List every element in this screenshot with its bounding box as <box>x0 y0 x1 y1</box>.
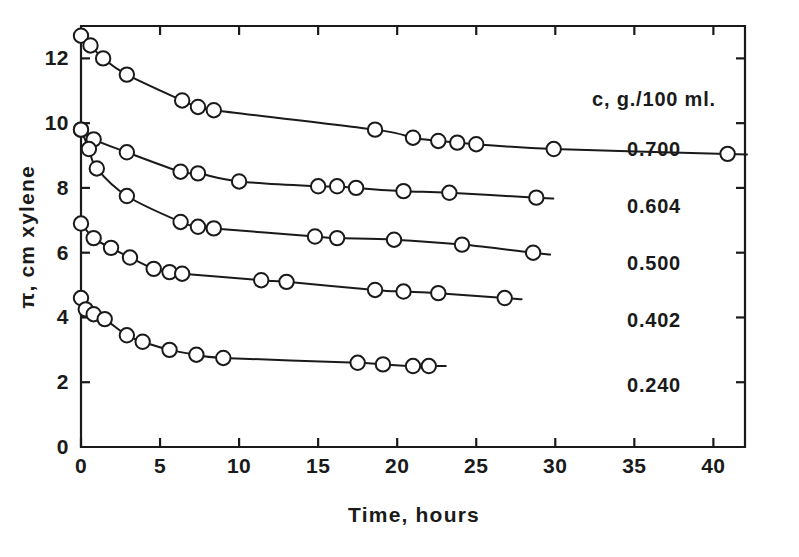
y-tick-label: 12 <box>45 46 69 69</box>
legend-label-0.500: 0.500 <box>627 252 681 274</box>
data-point-marker <box>350 356 364 370</box>
series-line-0.240 <box>81 298 446 366</box>
y-axis-tick-labels: 024681012 <box>45 46 69 458</box>
osmotic-pressure-line-chart: 0510152025303540 024681012 c, g./100 ml.… <box>0 0 799 557</box>
data-point-marker <box>135 335 149 349</box>
x-tick-label: 40 <box>701 454 725 477</box>
data-point-marker <box>254 273 268 287</box>
y-tick-label: 0 <box>57 435 69 458</box>
x-tick-label: 35 <box>622 454 646 477</box>
data-point-marker <box>83 38 97 52</box>
chart-figure: 0510152025303540 024681012 c, g./100 ml.… <box>0 0 799 557</box>
legend: c, g./100 ml.0.7000.6040.5000.4020.240 <box>592 88 716 396</box>
data-point-marker <box>547 142 561 156</box>
data-point-marker <box>96 51 110 65</box>
data-point-marker <box>216 351 230 365</box>
data-point-marker <box>232 174 246 188</box>
data-point-marker <box>207 103 221 117</box>
y-tick-label: 4 <box>57 305 69 328</box>
legend-title: c, g./100 ml. <box>592 88 716 110</box>
y-axis-label: π, cm xylene <box>15 165 38 309</box>
data-point-marker <box>173 165 187 179</box>
data-point-marker <box>526 245 540 259</box>
data-point-marker <box>498 291 512 305</box>
data-point-marker <box>368 283 382 297</box>
y-tick-label: 6 <box>57 241 69 264</box>
data-point-marker <box>120 328 134 342</box>
data-point-marker <box>189 348 203 362</box>
data-point-marker <box>82 142 96 156</box>
data-point-marker <box>422 359 436 373</box>
data-point-marker <box>406 359 420 373</box>
data-point-marker <box>175 267 189 281</box>
y-tick-label: 2 <box>57 370 69 393</box>
data-point-marker <box>406 131 420 145</box>
data-point-marker <box>74 216 88 230</box>
data-point-marker <box>191 166 205 180</box>
data-point-marker <box>450 135 464 149</box>
data-point-marker <box>330 231 344 245</box>
x-tick-label: 25 <box>464 454 488 477</box>
x-tick-label: 0 <box>75 454 87 477</box>
data-point-marker <box>147 262 161 276</box>
data-point-marker <box>311 179 325 193</box>
x-axis-tick-labels: 0510152025303540 <box>75 454 726 477</box>
data-point-marker <box>173 215 187 229</box>
x-tick-label: 10 <box>227 454 251 477</box>
data-point-marker <box>431 134 445 148</box>
data-point-marker <box>396 184 410 198</box>
data-point-marker <box>396 284 410 298</box>
data-point-marker <box>442 186 456 200</box>
x-tick-label: 20 <box>385 454 409 477</box>
data-point-marker <box>431 286 445 300</box>
x-axis-label: Time, hours <box>348 503 480 526</box>
data-point-marker <box>529 190 543 204</box>
data-point-marker <box>98 312 112 326</box>
data-point-marker <box>123 250 137 264</box>
y-tick-label: 8 <box>57 176 69 199</box>
x-tick-label: 15 <box>306 454 330 477</box>
data-point-marker <box>86 231 100 245</box>
data-point-marker <box>191 220 205 234</box>
data-point-marker <box>308 229 322 243</box>
data-point-marker <box>120 67 134 81</box>
data-point-marker <box>349 181 363 195</box>
data-point-marker <box>376 357 390 371</box>
y-tick-label: 10 <box>45 111 69 134</box>
x-tick-label: 30 <box>543 454 567 477</box>
data-point-marker <box>175 93 189 107</box>
data-point-marker <box>162 343 176 357</box>
data-point-marker <box>455 237 469 251</box>
legend-label-0.240: 0.240 <box>627 374 681 396</box>
x-tick-label: 5 <box>154 454 166 477</box>
legend-label-0.604: 0.604 <box>627 195 681 217</box>
data-point-marker <box>120 145 134 159</box>
data-point-marker <box>387 233 401 247</box>
data-point-marker <box>90 161 104 175</box>
legend-label-0.402: 0.402 <box>627 309 681 331</box>
data-point-marker <box>330 179 344 193</box>
data-point-marker <box>279 275 293 289</box>
data-point-marker <box>120 189 134 203</box>
data-point-marker <box>207 221 221 235</box>
data-point-marker <box>74 122 88 136</box>
data-point-marker <box>368 122 382 136</box>
data-point-marker <box>720 147 734 161</box>
data-point-marker <box>191 100 205 114</box>
data-point-marker <box>104 241 118 255</box>
data-point-marker <box>469 137 483 151</box>
legend-label-0.700: 0.700 <box>627 138 681 160</box>
